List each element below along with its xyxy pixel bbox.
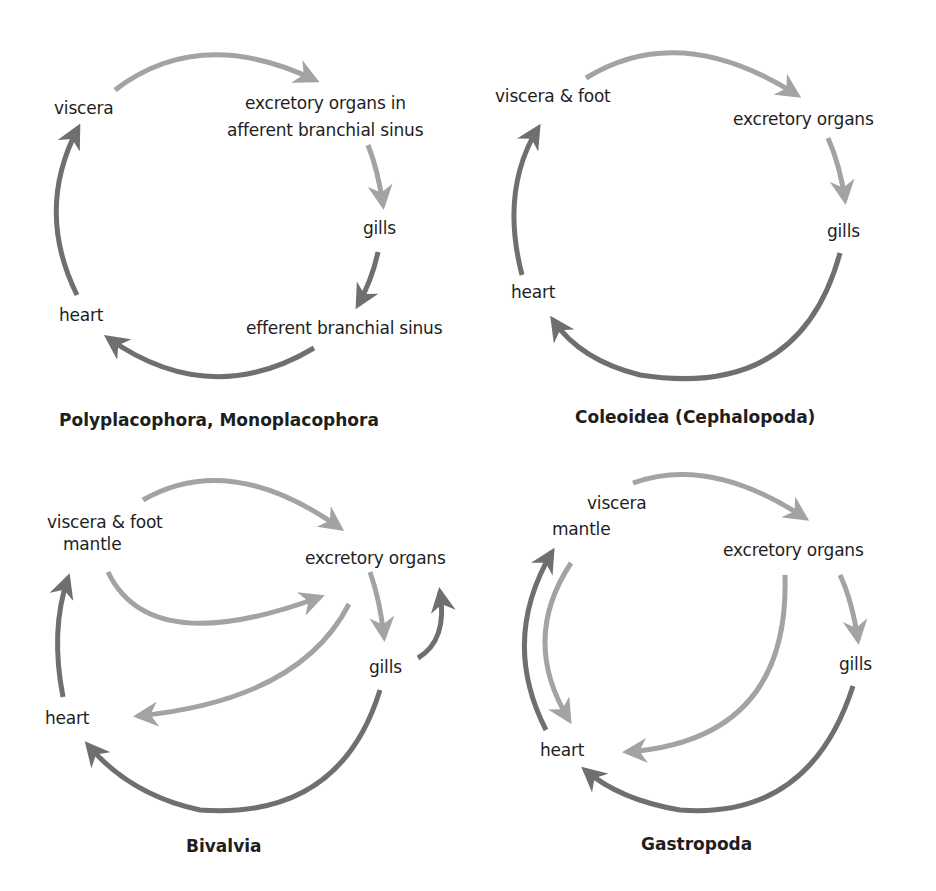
label-gills: gills: [827, 221, 860, 241]
arrow-gills-to-heart: [553, 253, 840, 379]
arrow-heart-to-mantle: [524, 552, 552, 730]
label-heart: heart: [511, 282, 555, 302]
label-viscera-foot: viscera & foot: [495, 86, 611, 106]
label-heart: heart: [540, 740, 584, 760]
arrow-excretory-to-gills: [370, 572, 384, 637]
label-viscera: viscera: [587, 493, 646, 513]
arrow-mantle-to-excretory: [108, 572, 320, 623]
label-excretory-organs: excretory organs: [733, 109, 874, 129]
label-excretory-organs: excretory organs: [723, 540, 864, 560]
label-excretory-organs: excretory organs: [305, 548, 446, 568]
label-gills: gills: [369, 657, 402, 677]
arrow-viscera-to-excretory: [586, 53, 797, 95]
label-heart: heart: [45, 708, 89, 728]
label-mantle: mantle: [552, 519, 610, 539]
arrow-mantle-to-heart: [545, 563, 571, 720]
arrow-heart-to-viscera: [514, 128, 538, 275]
arrow-gills-to-heart: [585, 686, 853, 811]
arrow-excretory-to-gills: [840, 575, 858, 640]
arrow-viscera-to-excretory: [633, 474, 805, 518]
panel-title: Coleoidea (Cephalopoda): [575, 407, 815, 427]
label-viscera-foot: viscera & foot: [47, 512, 163, 532]
panel-gastropoda: viscera mantle excretory organs gills he…: [0, 0, 468, 445]
arrow-heart-to-viscera-mantle: [58, 578, 68, 697]
panel-title: Gastropoda: [641, 834, 752, 854]
arrow-gills-to-heart: [88, 690, 380, 811]
arrow-gills-to-excretory: [418, 592, 442, 658]
arrow-excretory-to-gills: [828, 138, 845, 200]
arrow-viscera-to-excretory: [143, 480, 340, 528]
label-gills: gills: [839, 654, 872, 674]
arrow-excretory-to-heart: [627, 575, 785, 752]
panel-title: Bivalvia: [186, 836, 262, 856]
label-mantle: mantle: [63, 534, 121, 554]
